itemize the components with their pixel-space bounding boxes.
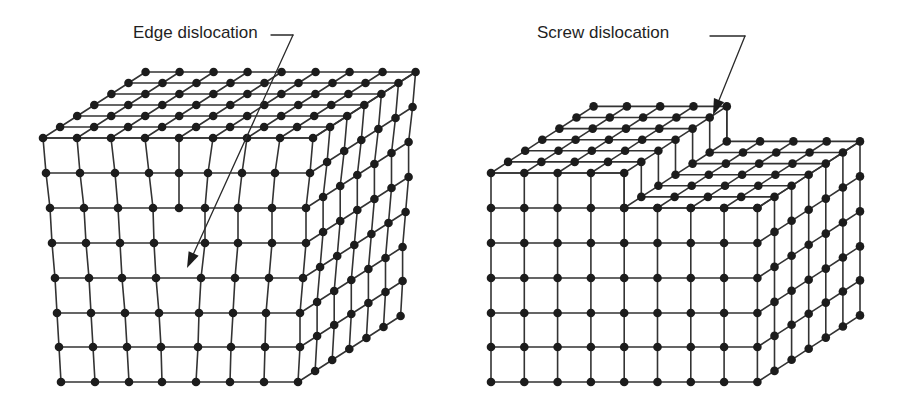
atom [770, 332, 779, 341]
atom [587, 343, 596, 352]
atom [192, 378, 201, 387]
atom [770, 193, 779, 202]
atom [209, 68, 218, 77]
atom [238, 169, 247, 178]
atom [353, 206, 362, 215]
atom [822, 194, 831, 203]
atom [157, 343, 166, 352]
atom [116, 239, 125, 248]
atom [344, 90, 353, 99]
atom [687, 274, 696, 283]
atom [306, 169, 315, 178]
atom [340, 147, 349, 156]
atom [90, 101, 99, 110]
atom [201, 239, 210, 248]
atom [360, 101, 369, 110]
atom [404, 138, 413, 147]
atom [226, 378, 235, 387]
atom [261, 343, 270, 352]
atom [107, 134, 116, 143]
atom [553, 309, 562, 318]
atom [771, 170, 780, 179]
atom [637, 158, 646, 167]
atom [107, 112, 116, 121]
atom [653, 309, 662, 318]
atom [192, 79, 201, 88]
atom [822, 137, 831, 146]
atom [391, 114, 400, 123]
atom [788, 159, 797, 168]
atom [302, 239, 311, 248]
atom [57, 378, 66, 387]
atom [277, 90, 286, 99]
atom [554, 147, 563, 156]
atom [381, 288, 390, 297]
atom [158, 101, 167, 110]
atom [753, 378, 762, 387]
atom [374, 125, 383, 134]
atom [39, 134, 48, 143]
atom [604, 158, 613, 167]
atom [687, 343, 696, 352]
atom [620, 378, 629, 387]
atom [175, 68, 184, 77]
atom [620, 169, 629, 178]
atom [587, 309, 596, 318]
atom [398, 243, 407, 252]
atom [118, 274, 127, 283]
atom [856, 242, 865, 251]
atom [770, 228, 779, 237]
atom [856, 137, 865, 146]
atom [753, 239, 762, 248]
atom [56, 123, 65, 132]
atom [487, 378, 496, 387]
atom [770, 367, 779, 376]
atom [670, 193, 679, 202]
atom [226, 79, 235, 88]
atom [753, 274, 762, 283]
atom [653, 239, 662, 248]
atom [538, 135, 547, 144]
atom [141, 68, 150, 77]
atom [753, 343, 762, 352]
atom [606, 113, 615, 122]
atom [197, 274, 206, 283]
atom [787, 182, 796, 191]
atom [856, 207, 865, 216]
atom [587, 239, 596, 248]
atom [158, 123, 167, 132]
atom [76, 169, 85, 178]
atom [720, 378, 729, 387]
atom [787, 321, 796, 330]
atom [379, 323, 388, 332]
atom [755, 159, 764, 168]
atom [46, 204, 55, 213]
atom [53, 309, 62, 318]
atom [277, 112, 286, 121]
atom [48, 239, 57, 248]
atom [396, 312, 405, 321]
atom [520, 274, 529, 283]
atom [311, 367, 320, 376]
atom [42, 169, 51, 178]
atom [195, 309, 204, 318]
atom [89, 343, 98, 352]
atom [73, 134, 82, 143]
atom [330, 287, 339, 296]
atom [653, 378, 662, 387]
atom [723, 102, 732, 111]
atom [350, 241, 359, 250]
atom [175, 90, 184, 99]
atom [856, 172, 865, 181]
atom [822, 159, 831, 168]
atom [204, 169, 213, 178]
atom [370, 160, 379, 169]
atom [587, 378, 596, 387]
atom [587, 169, 596, 178]
atom [839, 148, 848, 157]
atom [124, 101, 133, 110]
atom [605, 135, 614, 144]
atom [787, 252, 796, 261]
atom [313, 298, 322, 307]
atom [192, 101, 201, 110]
